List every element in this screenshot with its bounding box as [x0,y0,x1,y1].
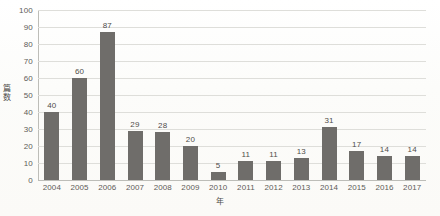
bar [294,158,309,180]
bar [266,161,281,180]
y-axis-tick-label: 0 [28,176,33,185]
x-axis-tick-label: 2011 [232,183,260,192]
y-axis-tick-label: 100 [19,6,33,15]
x-axis-tick-label: 2005 [66,183,94,192]
bar [155,132,170,180]
bar-value-label: 87 [103,21,112,30]
bar [100,32,115,180]
bar-slot: 29 [121,10,149,180]
bar-slot: 60 [66,10,94,180]
bar-slot: 11 [260,10,288,180]
bar [72,78,87,180]
bar [377,156,392,180]
x-axis-baseline [38,180,426,181]
bar-slot: 14 [371,10,399,180]
y-axis-tick-label: 50 [24,91,33,100]
bar [322,127,337,180]
bar-value-label: 5 [216,161,221,170]
x-axis-tick-label: 2010 [204,183,232,192]
bar-slot: 31 [315,10,343,180]
bar-slot: 11 [232,10,260,180]
bar-value-label: 20 [186,135,195,144]
y-axis-tick-label: 90 [24,23,33,32]
y-axis-tick-labels: 1009080706050403020100 [0,10,33,180]
bar [128,131,143,180]
bar-value-label: 29 [130,120,139,129]
bar-slot: 40 [38,10,66,180]
x-axis-tick-label: 2017 [398,183,426,192]
bar-slot: 5 [204,10,232,180]
x-axis-tick-label: 2007 [121,183,149,192]
y-axis-tick-label: 70 [24,57,33,66]
x-axis-tick-label: 2006 [93,183,121,192]
bar-value-label: 28 [158,121,167,130]
plot-area: 406087292820511111331171414 [38,10,426,180]
bar-slot: 17 [343,10,371,180]
x-axis-tick-label: 2015 [343,183,371,192]
bar [44,112,59,180]
bar-value-label: 60 [75,67,84,76]
y-axis-tick-label: 60 [24,74,33,83]
bar-value-label: 14 [408,145,417,154]
bar-value-label: 17 [352,140,361,149]
y-axis-tick-label: 40 [24,108,33,117]
x-axis-tick-label: 2012 [260,183,288,192]
bar [405,156,420,180]
bar-value-label: 13 [297,147,306,156]
bar-value-label: 14 [380,145,389,154]
bar-slot: 14 [398,10,426,180]
bar-slot: 28 [149,10,177,180]
x-axis-tick-label: 2008 [149,183,177,192]
x-axis-tick-label: 2004 [38,183,66,192]
y-axis-tick-label: 30 [24,125,33,134]
bar [183,146,198,180]
x-axis-tick-label: 2016 [371,183,399,192]
bar-value-label: 40 [47,101,56,110]
bar-slot: 13 [287,10,315,180]
x-axis-tick-label: 2009 [177,183,205,192]
x-axis-tick-label: 2013 [287,183,315,192]
x-axis-tick-labels: 2004200520062007200820092010201120122013… [38,183,426,192]
y-axis-tick-label: 20 [24,142,33,151]
bar [349,151,364,180]
x-axis-title: 年 [0,195,440,206]
bar [211,172,226,181]
bar-slot: 20 [177,10,205,180]
bar [238,161,253,180]
x-axis-tick-label: 2014 [315,183,343,192]
bar-value-label: 11 [242,150,251,159]
bar-slot: 87 [93,10,121,180]
bar-value-label: 11 [269,150,278,159]
bar-chart: 篇数 1009080706050403020100 40608729282051… [0,0,440,216]
bar-series: 406087292820511111331171414 [38,10,426,180]
y-axis-tick-label: 80 [24,40,33,49]
bar-value-label: 31 [324,116,333,125]
y-axis-tick-label: 10 [24,159,33,168]
